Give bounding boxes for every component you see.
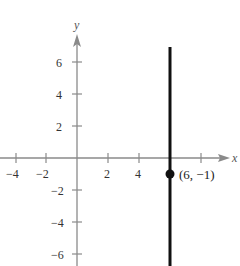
- x-tick-label: −2: [36, 167, 49, 181]
- y-tick-label: 2: [56, 120, 62, 134]
- point-label: (6, −1): [179, 167, 215, 182]
- x-tick-label: 4: [135, 167, 141, 181]
- y-axis-label: y: [73, 18, 80, 32]
- y-tick-label: −4: [51, 216, 64, 230]
- point-marker: [166, 170, 175, 179]
- x-tick-label: 2: [104, 167, 110, 181]
- coordinate-plane: x −4 −2 2 4 y 6 4 2 −2 −4 −6 (6, −1): [0, 0, 240, 266]
- y-tick-label: 6: [56, 56, 62, 70]
- y-tick-label: −6: [51, 248, 64, 262]
- x-axis-label: x: [231, 151, 238, 165]
- y-tick-label: 4: [56, 88, 62, 102]
- x-tick-label: −4: [6, 167, 19, 181]
- y-tick-label: −2: [51, 184, 64, 198]
- y-axis: y 6 4 2 −2 −4 −6: [51, 18, 82, 266]
